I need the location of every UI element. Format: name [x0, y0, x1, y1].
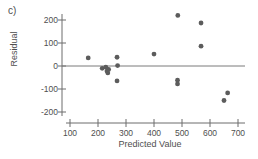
data-point: [225, 91, 230, 96]
data-point: [199, 21, 204, 26]
plot-canvas: [0, 0, 258, 159]
data-point: [175, 13, 180, 18]
data-point: [115, 79, 120, 84]
data-point: [115, 55, 120, 60]
data-point: [199, 44, 204, 49]
data-point: [106, 67, 111, 72]
data-point: [152, 52, 157, 57]
residual-scatter-figure: c) Residual Predicted Value 2001000-100-…: [0, 0, 258, 159]
data-point: [86, 56, 91, 61]
data-point-group: [86, 13, 230, 103]
data-point: [115, 63, 120, 68]
data-point: [222, 98, 227, 103]
axes-group: [58, 14, 245, 127]
data-point: [175, 82, 180, 87]
